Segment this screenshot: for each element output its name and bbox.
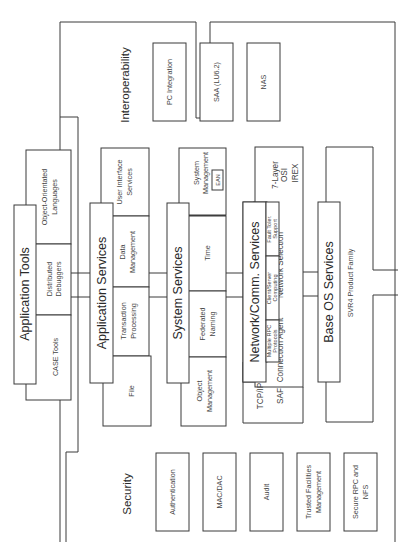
layer-base-os: SVR4 Product Family Base OS Services (318, 147, 398, 422)
svg-text:7-Layer: 7-Layer (271, 161, 280, 189)
svg-text:MAC/DAC: MAC/DAC (215, 475, 224, 508)
svg-text:Secure RPC and: Secure RPC and (351, 465, 360, 519)
interop-nas: NAS (247, 43, 280, 121)
svg-text:Data: Data (118, 244, 127, 259)
interop-pc-integration: PC Integration (153, 43, 186, 121)
svg-text:Trusted Facilities: Trusted Facilities (304, 465, 313, 519)
svg-text:Application Services: Application Services (95, 237, 109, 350)
svg-text:Management: Management (201, 152, 210, 194)
svg-text:System Services: System Services (171, 246, 185, 339)
interop-saa: SAA (LU6.2) (200, 43, 233, 121)
svg-text:Object: Object (195, 381, 204, 402)
svg-text:System: System (192, 161, 201, 185)
svg-text:Processing: Processing (129, 303, 138, 339)
security-label: Security (121, 473, 133, 515)
security-mac-dac: MAC/DAC (203, 453, 236, 531)
svg-text:Services: Services (125, 168, 134, 196)
layer-application-services: User Interface Services Data Management … (90, 148, 151, 426)
svg-text:TCP/IP: TCP/IP (256, 382, 265, 409)
svg-text:CASE Tools: CASE Tools (51, 337, 60, 376)
svg-text:Transaction: Transaction (119, 302, 128, 339)
svg-text:SAA (LU6.2): SAA (LU6.2) (212, 62, 221, 102)
architecture-diagram: Interoperability PC Integration SAA (LU6… (0, 0, 415, 542)
svg-text:Computing: Computing (272, 274, 278, 301)
svg-text:Object-Orientated: Object-Orientated (40, 169, 49, 226)
layer-network-services: 7-Layer OSI IREX Fault Toler. Support Cl… (243, 147, 303, 423)
svg-text:Management: Management (205, 370, 214, 412)
svg-text:Application Tools: Application Tools (18, 247, 32, 341)
svg-text:Management: Management (314, 471, 323, 513)
svg-text:Authentication: Authentication (168, 469, 177, 515)
svg-text:NAS: NAS (259, 74, 268, 89)
svg-text:User Interface: User Interface (115, 159, 124, 204)
security-trusted-facilities: Trusted Facilities Management (297, 453, 330, 531)
svg-text:Network/Comm. Services: Network/Comm. Services (248, 222, 262, 363)
svg-text:Time: Time (203, 245, 212, 261)
svg-text:Naming: Naming (208, 312, 217, 337)
svg-text:Management: Management (128, 231, 137, 273)
interoperability-label: Interoperability (119, 47, 131, 123)
svg-text:Distributed: Distributed (45, 262, 54, 296)
security-secure-rpc: Secure RPC and NFS (344, 453, 377, 531)
svg-text:File: File (127, 385, 136, 397)
svg-text:PC Integration: PC Integration (165, 59, 174, 105)
svg-text:NFS: NFS (361, 485, 370, 500)
svg-text:SVR4 Product Family: SVR4 Product Family (346, 248, 355, 317)
svg-text:Languages: Languages (50, 179, 59, 215)
svg-text:IREX: IREX (291, 163, 300, 183)
svg-text:Federated: Federated (198, 308, 207, 341)
svg-text:OSI: OSI (280, 168, 289, 182)
layer-application-tools: Object-Orientated Languages Distributed … (14, 150, 71, 400)
svg-text:EAN: EAN (215, 174, 221, 186)
security-audit: Audit (250, 453, 283, 531)
svg-text:Audit: Audit (262, 484, 271, 500)
svg-text:SAF: SAF (276, 388, 285, 404)
security-authentication: Authentication (156, 453, 189, 531)
svg-text:Support: Support (272, 219, 278, 239)
svg-text:Debuggers: Debuggers (54, 261, 63, 297)
svg-text:Protocols: Protocols (272, 329, 278, 353)
svg-text:Base OS Services: Base OS Services (322, 241, 336, 342)
layer-system-services: System Management EAN Time Federated Nam… (167, 148, 226, 426)
